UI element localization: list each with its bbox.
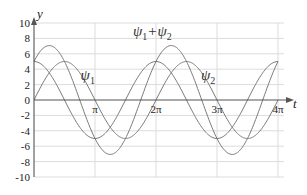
- x-tick-label: 2π: [150, 103, 162, 115]
- y-tick-label: 0: [25, 94, 31, 106]
- y-tick-label: 4: [25, 63, 31, 75]
- x-axis-label: t: [293, 96, 297, 111]
- wave-superposition-chart: 1086420-2-4-6-8-10π2π3π4π y t ψ1ψ2ψ1+ψ2: [0, 0, 307, 195]
- x-tick-label: 4π: [272, 103, 284, 115]
- y-tick-label: 8: [25, 32, 31, 44]
- y-tick-label: -4: [21, 125, 31, 137]
- x-tick-label: π: [92, 103, 98, 115]
- y-tick-label: 2: [25, 79, 31, 91]
- x-tick-label: 3π: [211, 103, 223, 115]
- y-tick-label: 6: [25, 48, 31, 60]
- y-tick-label: 10: [19, 17, 31, 29]
- y-axis-label: y: [35, 6, 43, 21]
- axes: [31, 17, 294, 177]
- y-tick-label: -10: [15, 171, 30, 183]
- y-tick-label: -6: [21, 140, 31, 152]
- series-label: ψ1+ψ2: [133, 23, 172, 42]
- curve-labels: ψ1ψ2ψ1+ψ2: [81, 23, 216, 86]
- y-tick-label: -8: [21, 156, 31, 168]
- series-label: ψ1: [81, 67, 95, 86]
- y-tick-label: -2: [21, 109, 30, 121]
